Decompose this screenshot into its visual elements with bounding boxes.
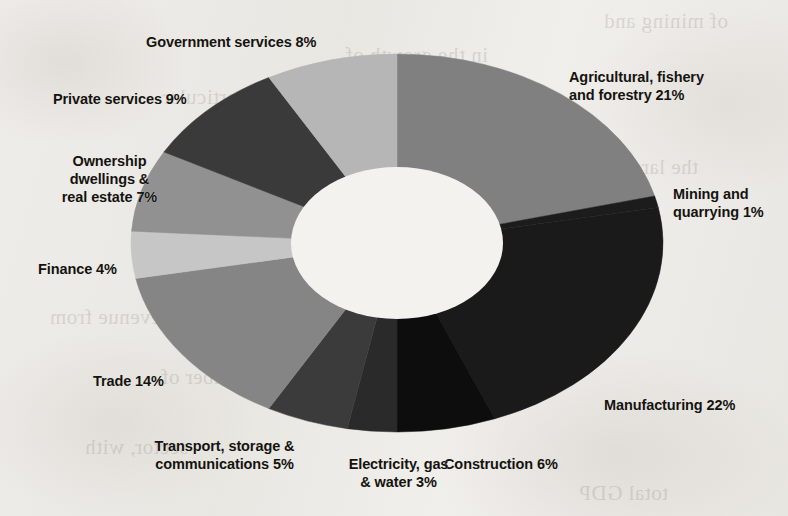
slice-label: Electricity, gas & water 3% <box>311 455 486 491</box>
slice-label: Agricultural, fishery and forestry 21% <box>569 68 704 104</box>
slice-label: Mining and quarrying 1% <box>673 185 764 221</box>
slice-label: Trade 14% <box>93 372 164 390</box>
donut-center-hole <box>291 167 503 319</box>
slice-label: Ownership dwellings & real estate 7% <box>22 152 197 206</box>
slice-label: Government services 8% <box>146 33 316 51</box>
slice-label: Private services 9% <box>53 90 187 108</box>
slice-label: Transport, storage & communications 5% <box>137 437 312 473</box>
donut-chart: Agricultural, fishery and forestry 21%Mi… <box>0 0 788 516</box>
slice-label: Finance 4% <box>38 260 117 278</box>
slice-label: Manufacturing 22% <box>604 396 735 414</box>
